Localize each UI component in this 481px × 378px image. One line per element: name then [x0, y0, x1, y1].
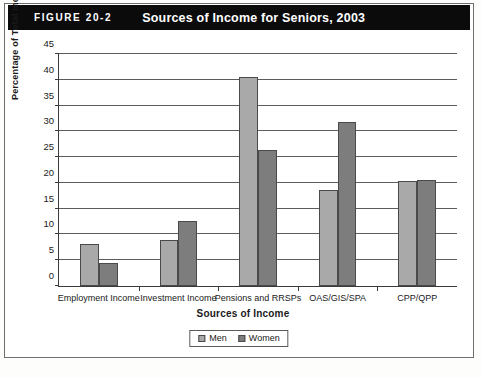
x-axis-category-label: Investment Income — [140, 293, 216, 303]
legend-swatch-icon — [238, 335, 245, 342]
y-axis-tick-label: 10 — [43, 218, 54, 229]
x-axis-category-label: CPP/QPP — [397, 293, 437, 303]
x-axis-title: Sources of Income — [20, 308, 466, 319]
figure-title-band: FIGURE 20-2 Sources of Income for Senior… — [8, 5, 470, 30]
plot-area: 051015202530354045 Employment IncomeInve… — [58, 54, 457, 287]
x-axis-tick-mark — [298, 286, 299, 291]
bar-men-2 — [239, 77, 258, 286]
y-axis-tick-mark — [55, 208, 59, 209]
gridline — [59, 105, 457, 106]
chart-legend: MenWomen — [189, 330, 288, 347]
x-axis-category-label: Employment Income — [58, 293, 140, 303]
y-axis-tick-label: 30 — [43, 115, 54, 126]
y-axis-tick-label: 5 — [49, 244, 54, 255]
y-axis-tick-label: 35 — [43, 89, 54, 100]
bar-women-3 — [338, 122, 357, 286]
y-axis-tick-label: 15 — [43, 192, 54, 203]
y-axis-tick-mark — [55, 285, 59, 286]
legend-label: Women — [249, 333, 280, 343]
bar-men-1 — [160, 240, 179, 286]
gridline — [59, 130, 457, 131]
y-axis-tick-mark — [55, 130, 59, 131]
gridline — [59, 79, 457, 80]
y-axis-tick-label: 25 — [43, 141, 54, 152]
bar-women-4 — [417, 180, 436, 286]
bar-women-1 — [178, 221, 197, 286]
legend-swatch-icon — [198, 335, 205, 342]
y-axis-tick-label: 20 — [43, 166, 54, 177]
y-axis-tick-mark — [55, 233, 59, 234]
figure-container: FIGURE 20-2 Sources of Income for Senior… — [0, 0, 481, 378]
y-axis-tick-label: 0 — [49, 270, 54, 281]
y-axis-tick-mark — [55, 156, 59, 157]
bar-men-4 — [398, 181, 417, 286]
y-axis-tick-mark — [55, 79, 59, 80]
gridline — [59, 53, 457, 54]
x-axis-tick-mark — [139, 286, 140, 291]
legend-entry-women[interactable]: Women — [238, 333, 280, 343]
x-axis-category-label: Pensions and RRSPs — [215, 293, 302, 303]
bar-men-3 — [319, 190, 338, 286]
figure-number-label: FIGURE 20-2 — [34, 12, 112, 23]
y-axis-tick-mark — [55, 53, 59, 54]
x-axis-tick-mark — [218, 286, 219, 291]
y-axis-title: Percentage of Total Income — [10, 0, 24, 124]
plot-wrapper: 051015202530354045 Employment IncomeInve… — [46, 52, 461, 299]
legend-label: Men — [209, 333, 227, 343]
y-axis-tick-mark — [55, 182, 59, 183]
y-axis-tick-mark — [55, 259, 59, 260]
x-axis-tick-mark — [377, 286, 378, 291]
legend-entry-men[interactable]: Men — [198, 333, 227, 343]
y-axis-tick-label: 40 — [43, 63, 54, 74]
chart-area: Percentage of Total Income 0510152025303… — [8, 36, 470, 356]
y-axis-tick-mark — [55, 105, 59, 106]
bar-women-2 — [258, 150, 277, 286]
bar-women-0 — [99, 263, 118, 286]
bar-men-0 — [80, 244, 99, 286]
y-axis-tick-label: 45 — [43, 38, 54, 49]
x-axis-category-label: OAS/GIS/SPA — [309, 293, 366, 303]
figure-title-label: Sources of Income for Seniors, 2003 — [142, 11, 365, 25]
